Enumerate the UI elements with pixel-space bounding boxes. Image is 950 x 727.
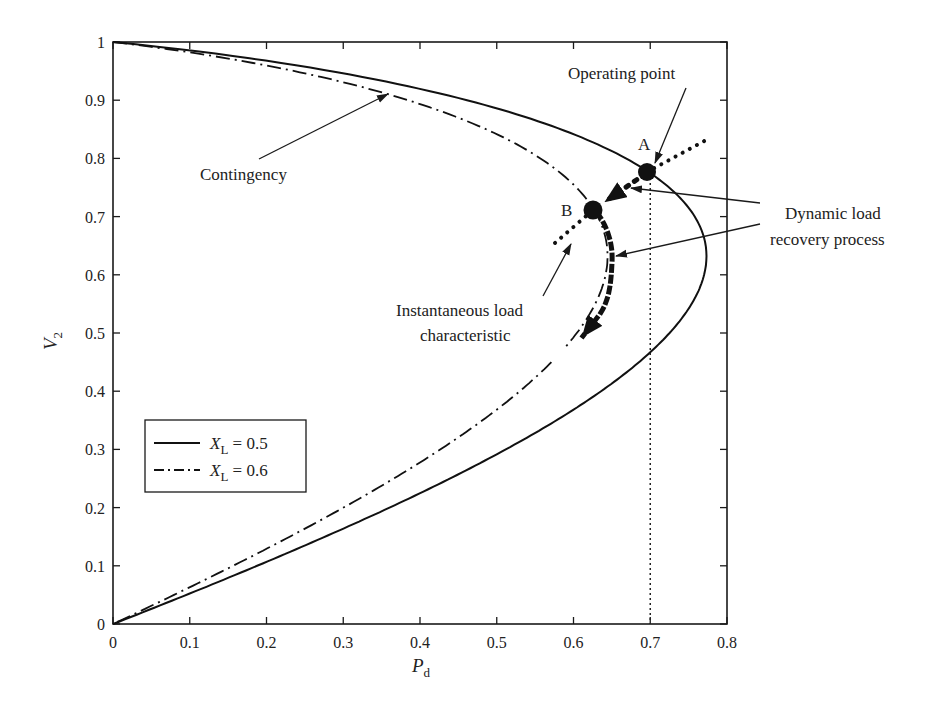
operating-point-a (638, 163, 656, 181)
x-tick-label: 0.6 (564, 634, 584, 651)
annotation-instant-line2: characteristic (420, 326, 511, 345)
arrow-dynamic-1 (631, 188, 760, 203)
x-axis-title: Pd (411, 655, 431, 680)
x-tick-label: 0.4 (410, 634, 430, 651)
pv-curve-xl-0-5 (113, 42, 707, 624)
legend: XL = 0.5 XL = 0.6 (145, 420, 306, 492)
pv-curve-chart: 00.10.20.30.40.50.60.70.8 00.10.20.30.40… (0, 0, 950, 727)
x-tick-label: 0.2 (257, 634, 277, 651)
y-tick-label: 0.4 (85, 383, 105, 400)
y-axis-title: V2 (40, 332, 65, 350)
annotation-instant-line1: Instantaneous load (396, 301, 523, 320)
annotation-operating-point: Operating point (568, 64, 675, 83)
x-tick-label: 0 (109, 634, 117, 651)
y-tick-label: 0.7 (85, 209, 105, 226)
annotation-dynamic-line1: Dynamic load (785, 204, 881, 223)
y-tick-label: 1 (97, 34, 105, 51)
y-tick-label: 0.8 (85, 150, 105, 167)
y-tick-label: 0.3 (85, 441, 105, 458)
y-tick-label: 0.6 (85, 267, 105, 284)
pv-curve-xl-0-6 (113, 42, 608, 347)
x-tick-labels: 00.10.20.30.40.50.60.70.8 (109, 634, 737, 651)
y-tick-label: 0.5 (85, 325, 105, 342)
arrow-dynamic-2 (616, 224, 760, 256)
y-tick-label: 0.2 (85, 500, 105, 517)
x-tick-label: 0.3 (333, 634, 353, 651)
point-b (584, 201, 603, 220)
x-tick-label: 0.5 (487, 634, 507, 651)
y-tick-label: 0 (97, 616, 105, 633)
pv-curve-xl-0-6-lower (113, 362, 551, 624)
y-tick-labels: 00.10.20.30.40.50.60.70.80.91 (85, 34, 105, 633)
recovery-path-a-to-b (606, 174, 645, 201)
instantaneous-char-a (647, 139, 708, 172)
y-tick-label: 0.9 (85, 92, 105, 109)
arrow-instantaneous (543, 244, 571, 296)
arrow-contingency (259, 94, 388, 159)
x-tick-label: 0.1 (180, 634, 200, 651)
x-tick-label: 0.8 (717, 634, 737, 651)
annotation-dynamic-line2: recovery process (770, 230, 885, 249)
x-tick-label: 0.7 (640, 634, 660, 651)
label-b: B (561, 201, 572, 220)
annotation-contingency: Contingency (200, 165, 287, 184)
label-a: A (638, 135, 651, 154)
y-tick-label: 0.1 (85, 558, 105, 575)
